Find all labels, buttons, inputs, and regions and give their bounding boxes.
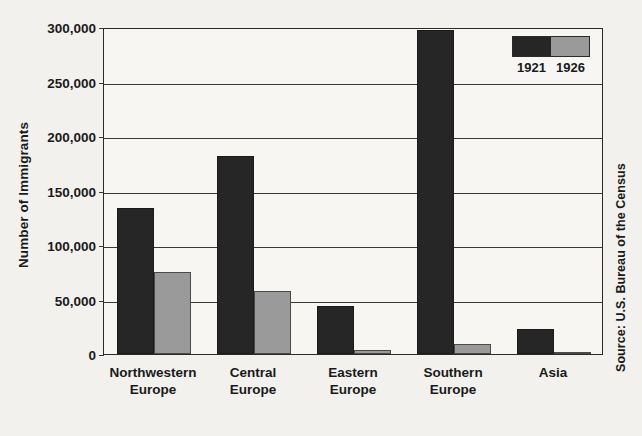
bar-1926-eastern-europe <box>354 350 391 354</box>
bar-1926-central-europe <box>254 291 291 354</box>
x-category-label: NorthwesternEurope <box>103 364 203 398</box>
immigration-bar-chart: Number of Immigrants 050,000100,000150,0… <box>0 0 642 436</box>
legend-label-1921: 1921 <box>512 60 551 75</box>
source-note-text: Source: U.S. Bureau of the Census <box>614 122 628 372</box>
x-category-label-line: Central <box>203 364 303 381</box>
legend-labels: 1921 1926 <box>512 60 590 75</box>
legend-swatches <box>512 36 590 57</box>
x-category-label-line: Europe <box>303 381 403 398</box>
x-category-label: EasternEurope <box>303 364 403 398</box>
legend-swatch-1921 <box>513 37 551 56</box>
x-category-label-line: Asia <box>503 364 603 381</box>
y-tick-label: 250,000 <box>6 75 96 90</box>
x-category-label: SouthernEurope <box>403 364 503 398</box>
bar-1926-asia <box>554 352 591 354</box>
x-category-label-line: Northwestern <box>103 364 203 381</box>
y-tick-label: 0 <box>6 348 96 363</box>
x-category-label-line: Europe <box>403 381 503 398</box>
plot-area <box>103 28 603 355</box>
gridline <box>104 138 602 139</box>
y-tick-label: 150,000 <box>6 184 96 199</box>
bar-1926-northwestern-europe <box>154 272 191 354</box>
bar-1921-central-europe <box>217 156 254 354</box>
legend-label-1926: 1926 <box>551 60 590 75</box>
bar-1926-southern-europe <box>454 344 491 354</box>
bar-1921-northwestern-europe <box>117 208 154 354</box>
gridline <box>104 84 602 85</box>
x-category-label-line: Europe <box>103 381 203 398</box>
x-category-label-line: Eastern <box>303 364 403 381</box>
x-category-label: CentralEurope <box>203 364 303 398</box>
source-note: Source: U.S. Bureau of the Census <box>614 122 634 372</box>
gridline <box>104 247 602 248</box>
bar-1921-eastern-europe <box>317 306 354 354</box>
x-category-label-line: Southern <box>403 364 503 381</box>
y-tick-mark <box>99 355 104 356</box>
chart-legend: 1921 1926 <box>512 36 590 75</box>
bar-1921-southern-europe <box>417 30 454 354</box>
y-axis-ticks: 050,000100,000150,000200,000250,000300,0… <box>0 0 96 436</box>
x-category-label: Asia <box>503 364 603 381</box>
y-tick-label: 200,000 <box>6 130 96 145</box>
y-tick-label: 100,000 <box>6 239 96 254</box>
legend-swatch-1926 <box>551 37 589 56</box>
x-category-label-line: Europe <box>203 381 303 398</box>
y-tick-label: 300,000 <box>6 21 96 36</box>
y-tick-label: 50,000 <box>6 293 96 308</box>
bar-1921-asia <box>517 329 554 354</box>
gridline <box>104 193 602 194</box>
